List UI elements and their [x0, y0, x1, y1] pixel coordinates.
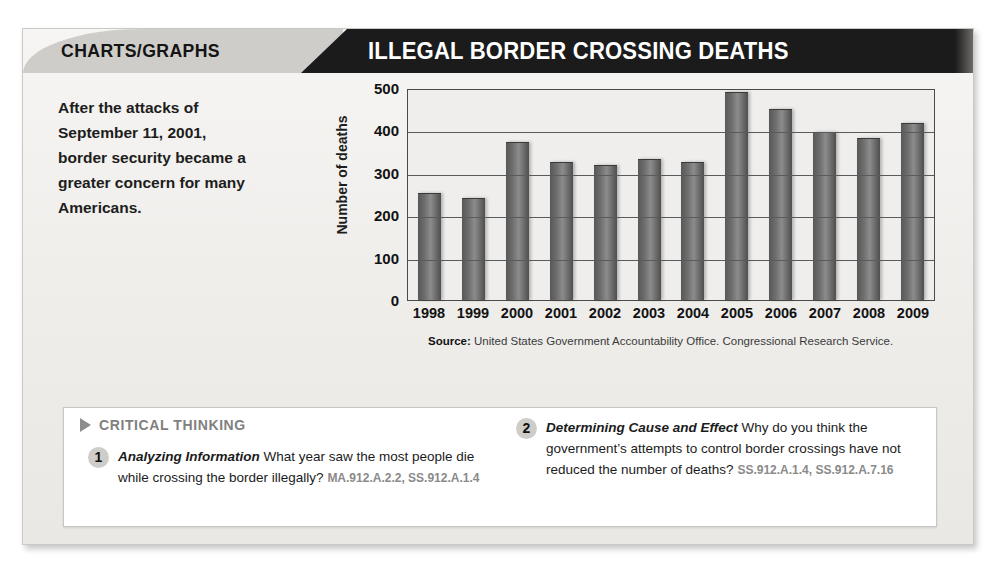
- x-axis-tick: 2007: [805, 305, 845, 321]
- bar-slot: [717, 90, 757, 300]
- question-1-title: Analyzing Information: [118, 449, 260, 464]
- bar: [857, 138, 880, 300]
- question-2-title: Determining Cause and Effect: [546, 420, 738, 435]
- bar: [418, 193, 441, 300]
- bar-slot: [454, 90, 494, 300]
- y-axis-tick: 300: [357, 165, 399, 182]
- x-axis-tick: 2000: [497, 305, 537, 321]
- critical-thinking-label: CRITICAL THINKING: [99, 417, 246, 433]
- question-2: 2 Determining Cause and Effect Why do yo…: [516, 417, 931, 481]
- bar: [638, 159, 661, 300]
- source-label: Source:: [428, 335, 471, 347]
- bar-slot: [673, 90, 713, 300]
- bar-slot: [585, 90, 625, 300]
- question-2-number: 2: [516, 418, 537, 439]
- page-root: CHARTS/GRAPHS ILLEGAL BORDER CROSSING DE…: [0, 0, 998, 575]
- x-axis-tick: 1999: [453, 305, 493, 321]
- bar: [506, 142, 529, 300]
- gridline: [408, 217, 934, 218]
- source-note: Source: United States Government Account…: [428, 335, 998, 347]
- critical-thinking-panel: CRITICAL THINKING 1 Analyzing Informatio…: [63, 407, 937, 527]
- bar-slot: [541, 90, 581, 300]
- bar-series: [408, 90, 934, 300]
- bar-slot: [892, 90, 932, 300]
- y-axis-title: Number of deaths: [334, 105, 350, 245]
- bar-slot: [410, 90, 450, 300]
- plot-area: [407, 89, 935, 301]
- critical-thinking-heading: CRITICAL THINKING: [80, 417, 246, 433]
- y-axis-tick: 400: [357, 122, 399, 139]
- y-axis-tick: 0: [357, 292, 399, 309]
- x-axis-tick: 2001: [541, 305, 581, 321]
- question-1-body: Analyzing Information What year saw the …: [118, 446, 488, 489]
- bar: [550, 162, 573, 300]
- question-1: 1 Analyzing Information What year saw th…: [88, 446, 488, 489]
- x-axis-tick: 2005: [717, 305, 757, 321]
- section-kicker: CHARTS/GRAPHS: [61, 40, 220, 62]
- source-text: United States Government Accountability …: [474, 335, 893, 347]
- question-1-standards: MA.912.A.2.2, SS.912.A.1.4: [327, 471, 479, 485]
- x-axis-tick: 1998: [409, 305, 449, 321]
- bar-slot: [498, 90, 538, 300]
- bar: [725, 92, 748, 300]
- intro-paragraph: After the attacks of September 11, 2001,…: [58, 95, 258, 220]
- bar: [813, 132, 836, 300]
- bar: [901, 123, 924, 300]
- x-axis-tick: 2008: [849, 305, 889, 321]
- gridline: [408, 260, 934, 261]
- x-axis-tick: 2006: [761, 305, 801, 321]
- x-axis-tick: 2003: [629, 305, 669, 321]
- x-axis-tick: 2004: [673, 305, 713, 321]
- bar-slot: [629, 90, 669, 300]
- y-axis-tick: 100: [357, 250, 399, 267]
- bar-slot: [761, 90, 801, 300]
- bar: [462, 198, 485, 300]
- header-band-tail: [955, 29, 973, 73]
- bar: [769, 109, 792, 300]
- chart-title: ILLEGAL BORDER CROSSING DEATHS: [368, 37, 789, 65]
- bar-chart: Number of deaths 5004003002001000 199819…: [278, 89, 938, 389]
- triangle-right-icon: [80, 418, 91, 432]
- x-axis-tick: 2009: [893, 305, 933, 321]
- gridline: [408, 175, 934, 176]
- bar: [681, 162, 704, 300]
- card-header: CHARTS/GRAPHS ILLEGAL BORDER CROSSING DE…: [23, 29, 973, 73]
- x-axis-ticks: 1998199920002001200220032004200520062007…: [407, 305, 935, 321]
- y-axis-tick: 200: [357, 207, 399, 224]
- bar-slot: [848, 90, 888, 300]
- gridline: [408, 132, 934, 133]
- card-body: After the attacks of September 11, 2001,…: [23, 73, 973, 403]
- x-axis-tick: 2002: [585, 305, 625, 321]
- question-2-body: Determining Cause and Effect Why do you …: [546, 417, 931, 481]
- y-axis-ticks: 5004003002001000: [353, 89, 399, 301]
- bar: [594, 165, 617, 300]
- question-2-standards: SS.912.A.1.4, SS.912.A.7.16: [737, 463, 893, 477]
- content-card: CHARTS/GRAPHS ILLEGAL BORDER CROSSING DE…: [22, 28, 974, 545]
- bar-slot: [804, 90, 844, 300]
- y-axis-tick: 500: [357, 80, 399, 97]
- question-1-number: 1: [88, 447, 109, 468]
